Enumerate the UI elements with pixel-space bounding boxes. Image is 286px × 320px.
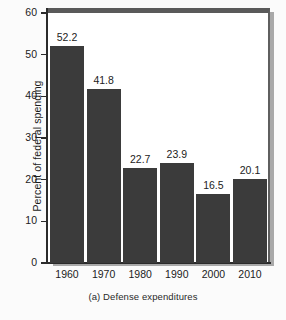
bar-1980 [123, 168, 157, 263]
bar-2010 [233, 179, 267, 263]
y-tick-10 [41, 221, 46, 223]
y-tick-30 [41, 137, 46, 139]
bar-value-1960: 52.2 [44, 31, 90, 43]
y-tick-label-40: 40 [13, 89, 37, 101]
y-tick-label-20: 20 [13, 173, 37, 185]
y-tick-50 [41, 54, 46, 56]
y-tick-label-30: 30 [13, 131, 37, 143]
bar-1960 [50, 46, 84, 264]
y-tick-label-0: 0 [13, 256, 37, 268]
y-tick-40 [41, 96, 46, 98]
y-tick-label-50: 50 [13, 48, 37, 60]
bar-value-1990: 23.9 [154, 148, 200, 160]
bar-1990 [160, 163, 194, 263]
x-tick-label-2010: 2010 [227, 268, 273, 280]
bar-value-2000: 16.5 [190, 179, 236, 191]
y-axis-line [46, 8, 48, 264]
bar-1970 [87, 89, 121, 263]
bar-value-1970: 41.8 [81, 74, 127, 86]
figure-caption: (a) Defense expenditures [0, 291, 286, 302]
bar-value-2010: 20.1 [227, 164, 273, 176]
y-tick-label-10: 10 [13, 214, 37, 226]
bar-2000 [196, 194, 230, 263]
y-tick-60 [41, 12, 46, 14]
y-tick-label-60: 60 [13, 6, 37, 18]
y-tick-0 [41, 262, 46, 264]
bar-chart-figure: Percent of federal spending 010203040506… [0, 0, 286, 320]
y-tick-20 [41, 179, 46, 181]
